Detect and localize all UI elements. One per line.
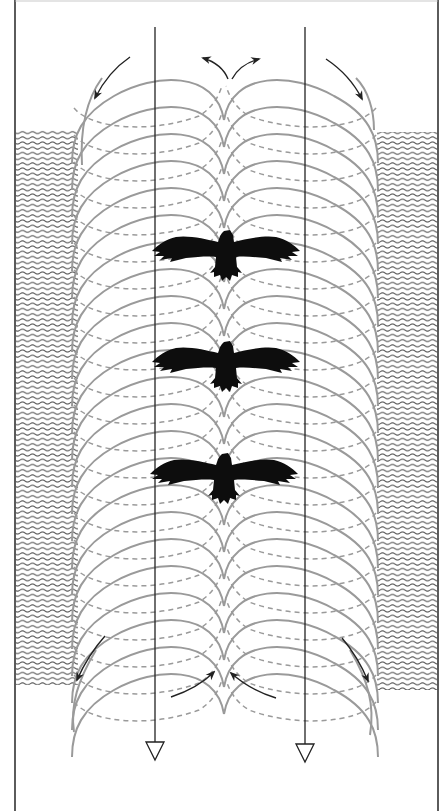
left-downwash-line-head-icon: [146, 742, 164, 760]
right-vortex-loop-dashed: [226, 599, 376, 640]
left-vortex-loop-dashed: [74, 113, 222, 154]
vortex-columns: [72, 78, 378, 757]
left-vortex-loop-dashed: [74, 194, 222, 235]
right-downwash-line-head-icon: [296, 744, 314, 762]
left-vortex-loop-dashed: [74, 383, 222, 424]
right-vortex-loop-solid: [224, 134, 378, 217]
left-vortex-loop-solid: [72, 566, 224, 649]
top-left-inflow-arrow-icon: [95, 57, 130, 98]
left-vortex-loop-solid: [72, 269, 224, 352]
right-vortex-loop-dashed: [226, 491, 376, 532]
right-bottom-tail: [350, 650, 372, 735]
right-vortex-loop-solid: [224, 539, 378, 622]
right-vortex-loop-solid: [224, 485, 378, 568]
left-vortex-loop-dashed: [74, 653, 222, 694]
vortex-diagram: [0, 0, 445, 811]
bird-bottom-silhouette-icon: [150, 453, 298, 504]
top-center-left-outflow-arrow-icon: [203, 58, 228, 79]
diagram-stage: Downwash diagram: two downward arrows fl…: [0, 0, 445, 811]
left-vortex-loop-solid: [72, 107, 224, 190]
left-vortex-loop-solid: [72, 593, 224, 676]
bird-top-silhouette-icon: [152, 230, 300, 281]
right-vortex-loop-dashed: [226, 113, 376, 154]
right-vortex-loop-solid: [224, 620, 378, 703]
birds: [150, 230, 300, 504]
left-vortex-loop-solid: [72, 539, 224, 622]
left-vortex-loop-dashed: [74, 275, 222, 316]
bird-body: [152, 230, 300, 281]
left-vortex-loop-solid: [72, 620, 224, 703]
left-vortex-loop-dashed: [74, 572, 222, 613]
left-vortex-loop-dashed: [74, 86, 222, 127]
left-vortex-loop-dashed: [74, 545, 222, 586]
left-vortex-loop-dashed: [74, 680, 222, 721]
right-vortex-loop-dashed: [226, 383, 376, 424]
right-vortex-loop-solid: [224, 188, 378, 271]
right-vortex-loop-solid: [224, 566, 378, 649]
left-vortex-loop-dashed: [74, 491, 222, 532]
left-vortex-loop-dashed: [74, 302, 222, 343]
left-vortex-loop-dashed: [74, 599, 222, 640]
right-vortex-loop-dashed: [226, 86, 376, 127]
right-vortex-loop-dashed: [226, 140, 376, 181]
right-vortex-loop-solid: [224, 269, 378, 352]
right-vortex-loop-dashed: [226, 302, 376, 343]
left-vortex-loop-solid: [72, 188, 224, 271]
right-vortex-loop-solid: [224, 80, 378, 163]
right-vortex-loop-dashed: [226, 626, 376, 667]
right-water-bank: [377, 132, 438, 690]
right-vortex-loop-dashed: [226, 410, 376, 451]
left-vortex-loop-solid: [72, 647, 224, 730]
downwash-lines: [146, 27, 314, 762]
left-vortex-loop-dashed: [74, 167, 222, 208]
left-vortex-loop-dashed: [74, 410, 222, 451]
left-water-bank: [15, 130, 78, 685]
left-vortex-loop-dashed: [74, 518, 222, 559]
bird-body: [150, 453, 298, 504]
right-vortex-loop-dashed: [226, 545, 376, 586]
left-vortex-loop-solid: [72, 377, 224, 460]
bird-body: [152, 341, 300, 392]
right-vortex-loop-dashed: [226, 167, 376, 208]
right-vortex-loop-solid: [224, 512, 378, 595]
right-vortex-loop-dashed: [226, 572, 376, 613]
right-vortex-loop-solid: [224, 377, 378, 460]
top-center-right-outflow-arrow-icon: [232, 59, 259, 79]
left-vortex-loop-dashed: [74, 140, 222, 181]
left-vortex-loop-solid: [72, 512, 224, 595]
bird-middle-silhouette-icon: [152, 341, 300, 392]
right-vortex-loop-dashed: [226, 518, 376, 559]
left-vortex-loop-solid: [72, 80, 224, 163]
right-vortex-loop-solid: [224, 107, 378, 190]
right-vortex-loop-solid: [224, 161, 378, 244]
left-vortex-loop-solid: [72, 485, 224, 568]
right-vortex-loop-dashed: [226, 275, 376, 316]
right-vortex-loop-dashed: [226, 653, 376, 694]
left-vortex-loop-solid: [72, 134, 224, 217]
right-vortex-loop-solid: [224, 593, 378, 676]
right-vortex-loop-dashed: [226, 194, 376, 235]
left-vortex-loop-solid: [72, 161, 224, 244]
